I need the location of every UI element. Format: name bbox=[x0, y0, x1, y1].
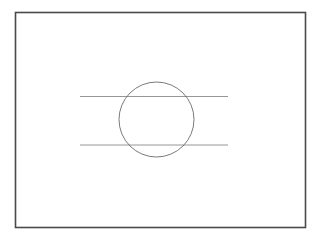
geometric-figure bbox=[0, 0, 322, 241]
diagram-canvas bbox=[0, 0, 322, 241]
outer-frame bbox=[16, 13, 306, 228]
